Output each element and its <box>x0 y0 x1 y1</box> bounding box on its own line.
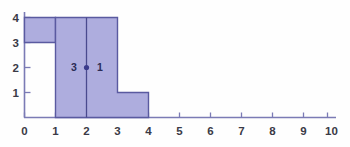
annotation-right: 1 <box>97 61 103 73</box>
x-tick-label-6: 6 <box>207 125 213 137</box>
y-tick-label-1: 1 <box>13 87 20 99</box>
y-tick-label-3: 3 <box>13 37 19 49</box>
x-tick-label-10: 10 <box>325 125 338 137</box>
y-tick-label-2: 2 <box>13 62 19 74</box>
x-tick-label-4: 4 <box>145 125 152 137</box>
x-tick-label-9: 9 <box>300 125 306 137</box>
chart-figure: 4 3 2 1 0 1 2 3 4 5 6 7 8 9 10 3 1 <box>0 0 350 147</box>
x-tick-label-2: 2 <box>83 125 89 137</box>
bin-bar-0-1 <box>25 18 56 43</box>
y-tick-label-4: 4 <box>13 12 20 24</box>
marker-point-dot <box>84 65 89 70</box>
x-tick-label-5: 5 <box>176 125 183 137</box>
x-tick-label-1: 1 <box>52 125 59 137</box>
x-tick-label-3: 3 <box>114 125 120 137</box>
x-tick-label-0: 0 <box>21 125 27 137</box>
annotation-left: 3 <box>71 61 77 73</box>
x-tick-label-7: 7 <box>238 125 244 137</box>
x-tick-label-8: 8 <box>269 125 276 137</box>
step-histogram-plot: 4 3 2 1 0 1 2 3 4 5 6 7 8 9 10 3 1 <box>0 0 350 147</box>
